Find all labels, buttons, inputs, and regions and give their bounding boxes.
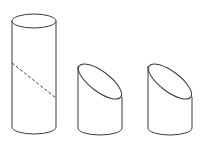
cylinder-cut-diagram xyxy=(0,0,201,145)
cut-piece-1 xyxy=(73,58,127,135)
cut-line-dashed xyxy=(12,63,56,98)
cut-piece-2 xyxy=(143,58,197,135)
piece2-oblique-top-ellipse xyxy=(143,58,197,105)
piece1-oblique-top-ellipse xyxy=(73,58,127,105)
piece2-bottom-arc xyxy=(148,128,192,135)
cylinder-top-ellipse xyxy=(12,14,56,28)
full-cylinder xyxy=(12,14,56,134)
cylinder-bottom-arc xyxy=(12,127,56,134)
piece1-bottom-arc xyxy=(78,128,122,135)
